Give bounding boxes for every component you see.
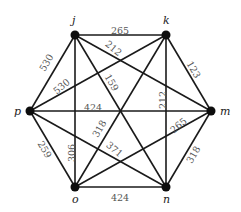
node-label-p: p xyxy=(14,105,21,118)
edge-weight-j-n: 159 xyxy=(103,72,122,93)
node-label-n: n xyxy=(163,193,170,206)
node-label-o: o xyxy=(72,193,79,206)
node-k xyxy=(162,31,171,40)
complete-graph-k6: 2652121593065301232123185303182654244243… xyxy=(0,0,241,212)
edge-weight-n-p: 371 xyxy=(104,139,125,159)
edge-weight-j-k: 265 xyxy=(111,25,129,36)
edge-weight-j-m: 212 xyxy=(103,38,124,58)
node-label-m: m xyxy=(220,105,230,118)
edge-weight-k-n: 212 xyxy=(157,91,168,109)
graph-diagram: 2652121593065301232123185303182654244243… xyxy=(0,0,241,212)
edge-weight-k-p: 530 xyxy=(51,76,72,96)
node-label-k: k xyxy=(163,14,170,27)
node-label-j: j xyxy=(69,14,76,27)
edge-weight-o-p: 259 xyxy=(36,139,55,160)
edge-weight-m-o: 265 xyxy=(168,115,189,135)
edge-weight-j-p: 530 xyxy=(37,52,56,73)
edge-k-p xyxy=(30,35,166,111)
edge-weight-m-n: 318 xyxy=(184,144,203,165)
node-labels-layer: jkmnop xyxy=(14,14,230,206)
edge-weight-n-o: 424 xyxy=(111,192,129,203)
edge-weight-m-p: 424 xyxy=(84,102,102,113)
edge-k-m xyxy=(166,35,211,111)
node-j xyxy=(71,31,80,40)
edge-j-p xyxy=(30,35,75,111)
node-p xyxy=(26,107,35,116)
node-n xyxy=(162,183,171,192)
node-m xyxy=(207,107,216,116)
edge-weight-j-o: 306 xyxy=(66,144,77,162)
node-o xyxy=(71,183,80,192)
edges-layer xyxy=(30,35,211,187)
